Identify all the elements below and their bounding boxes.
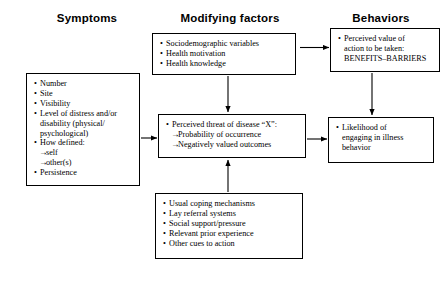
list-item: Perceived value of xyxy=(338,34,436,44)
list-item: Negatively valued outcomes xyxy=(166,140,302,150)
list-item: engaging in illness xyxy=(336,133,430,143)
list-item: Usual coping mechanisms xyxy=(163,199,299,209)
list-item: Level of distress and/or xyxy=(34,109,136,119)
list-item: other(s) xyxy=(34,158,136,168)
coping-mechanisms-list: Usual coping mechanisms Lay referral sys… xyxy=(163,199,299,249)
list-item: Relevant prior experience xyxy=(163,229,299,239)
list-item: Other cues to action xyxy=(163,239,299,249)
list-item: Visibility xyxy=(34,99,136,109)
perceived-value-list: Perceived value of action to be taken: B… xyxy=(338,34,436,64)
list-item: BENEFITS–BARRIERS xyxy=(338,54,436,64)
modifying-factors-box: Sociodemographic variables Health motiva… xyxy=(152,33,296,75)
list-item: Sociodemographic variables xyxy=(160,39,292,49)
list-item: Site xyxy=(34,89,136,99)
list-item: Number xyxy=(34,79,136,89)
column-header-symptoms: Symptoms xyxy=(22,12,152,24)
symptoms-box: Number Site Visibility Level of distress… xyxy=(26,73,140,186)
list-item: Perceived threat of disease “X”: xyxy=(166,120,302,130)
list-item: behavior xyxy=(336,143,430,153)
list-item: Persistence xyxy=(34,168,136,178)
list-item: Likelihood of xyxy=(336,123,430,133)
list-item: psychological) xyxy=(34,129,136,139)
list-item: How defined: xyxy=(34,138,136,148)
likelihood-box: Likelihood of engaging in illness behavi… xyxy=(328,117,434,163)
list-item: Social support/pressure xyxy=(163,219,299,229)
perceived-threat-list: Perceived threat of disease “X”: Probabi… xyxy=(166,120,302,150)
list-item: Health motivation xyxy=(160,49,292,59)
symptoms-list: Number Site Visibility Level of distress… xyxy=(34,79,136,178)
likelihood-list: Likelihood of engaging in illness behavi… xyxy=(336,123,430,153)
list-item: disability (physical/ xyxy=(34,119,136,129)
list-item: self xyxy=(34,148,136,158)
modifying-factors-list: Sociodemographic variables Health motiva… xyxy=(160,39,292,69)
diagram-canvas: Symptoms Modifying factors Behaviors Num… xyxy=(0,0,448,283)
list-item: Probability of occurrence xyxy=(166,130,302,140)
column-header-modifying-factors: Modifying factors xyxy=(150,12,310,24)
perceived-threat-box: Perceived threat of disease “X”: Probabi… xyxy=(158,114,306,158)
column-header-behaviors: Behaviors xyxy=(318,12,444,24)
list-item: Health knowledge xyxy=(160,59,292,69)
list-item: action to be taken: xyxy=(338,44,436,54)
list-item: Lay referral systems xyxy=(163,209,299,219)
perceived-value-box: Perceived value of action to be taken: B… xyxy=(330,28,440,72)
coping-mechanisms-box: Usual coping mechanisms Lay referral sys… xyxy=(155,193,303,259)
